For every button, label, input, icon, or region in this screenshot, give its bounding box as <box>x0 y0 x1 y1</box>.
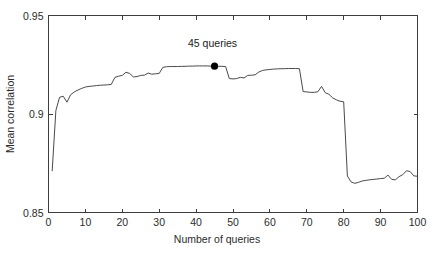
mean-correlation-line-chart: 0102030405060708090100 0.850.90.95 45 qu… <box>0 0 434 255</box>
x-axis-title: Number of queries <box>174 233 260 245</box>
x-tick-label: 30 <box>153 216 165 228</box>
x-tick-label: 40 <box>190 216 202 228</box>
x-tick-label: 0 <box>46 216 52 228</box>
x-tick-label: 10 <box>80 216 92 228</box>
x-tick-label: 50 <box>227 216 239 228</box>
y-axis-title: Mean correlation <box>4 75 16 153</box>
x-tick-label: 90 <box>375 216 387 228</box>
x-tick-label: 60 <box>264 216 276 228</box>
x-tick-label: 100 <box>409 216 427 228</box>
annotation-marker <box>211 63 218 70</box>
y-tick-label: 0.95 <box>23 10 44 22</box>
y-tick-label: 0.9 <box>29 108 44 120</box>
y-tick-label: 0.85 <box>23 207 44 219</box>
x-tick-label: 70 <box>301 216 313 228</box>
x-tick-label: 20 <box>116 216 128 228</box>
x-tick-label: 80 <box>338 216 350 228</box>
chart-figure: 0102030405060708090100 0.850.90.95 45 qu… <box>0 0 434 255</box>
annotation-label: 45 queries <box>188 37 237 49</box>
